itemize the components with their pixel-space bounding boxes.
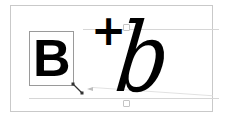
diagram-frame: B + b [10,5,213,112]
arrow-icon [87,87,95,91]
diagonal-resize-icon[interactable] [71,82,85,96]
bold-b-glyph: B [33,28,71,88]
square-handle-icon[interactable] [123,100,130,107]
square-handle-icon[interactable] [123,24,130,31]
